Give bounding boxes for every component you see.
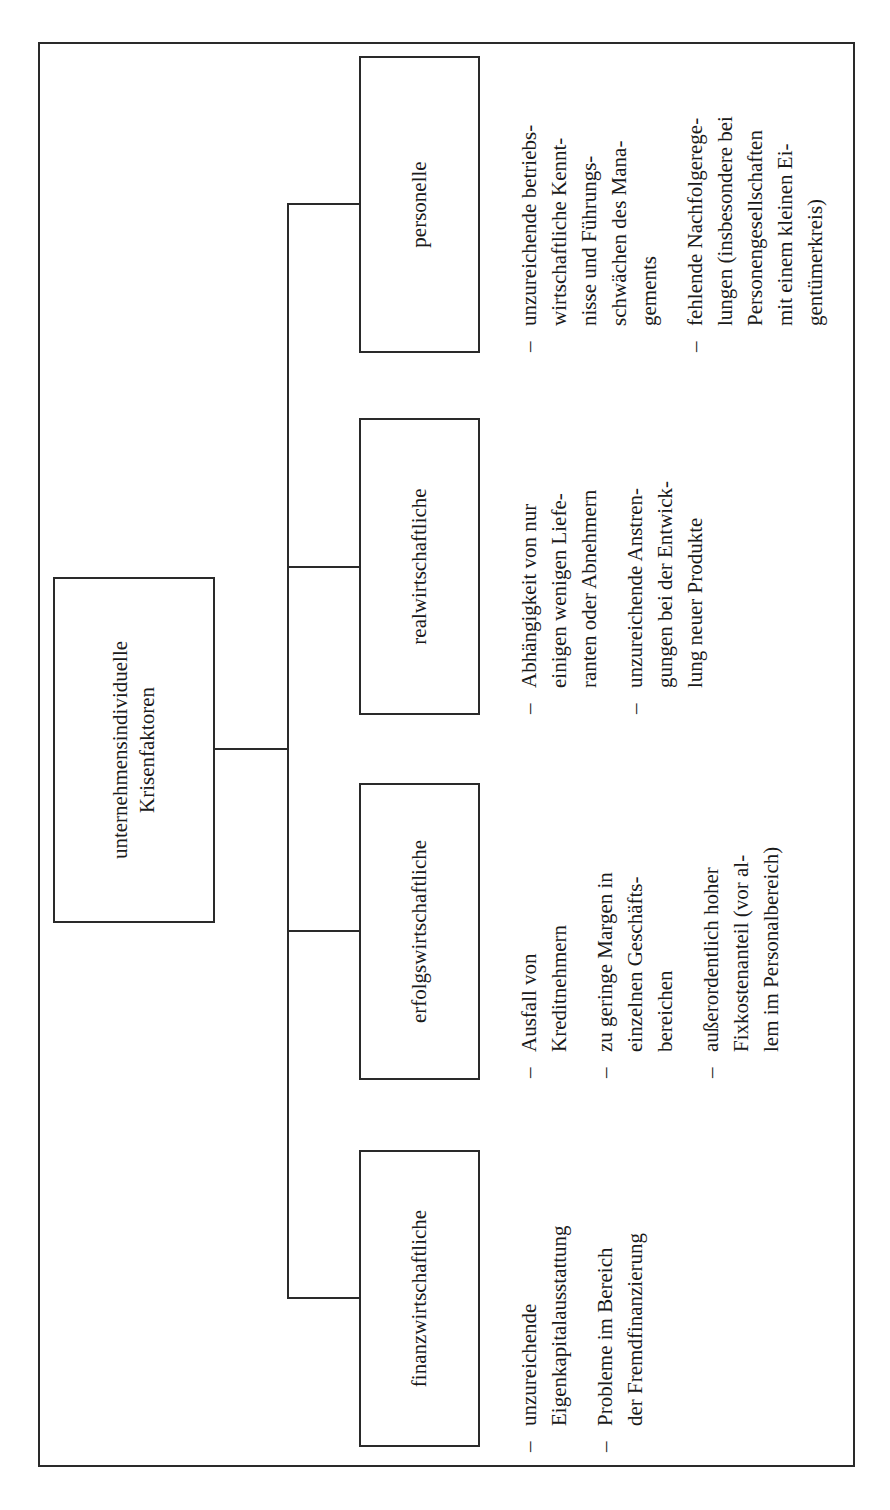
connector-real (287, 566, 359, 568)
list-item: – Probleme im Bereich der Fremdfinanzier… (590, 1122, 650, 1452)
item-text: Probleme im Bereich der Fremdfinanzierun… (590, 1122, 650, 1426)
dash-bullet-icon: – (590, 1052, 680, 1078)
item-text: fehlende Nachfolgerege- lungen (insbeson… (680, 22, 830, 326)
dash-bullet-icon: – (514, 1426, 574, 1452)
list-item: – unzureichende betriebs- wirtschaftlich… (514, 22, 664, 352)
category-label: erfolgswirtschaftliche (406, 840, 433, 1023)
diagram-canvas: unternehmensindividuelle Krisenfaktoren … (0, 0, 890, 1510)
dash-bullet-icon: – (590, 1426, 650, 1452)
dash-bullet-icon: – (696, 1052, 786, 1078)
category-box-erfolgswirtschaftliche: erfolgswirtschaftliche (359, 783, 480, 1080)
dash-bullet-icon: – (514, 1052, 574, 1078)
list-item: – Abhängigkeit von nur einigen wenigen L… (514, 384, 604, 714)
item-text: Ausfall von Kreditnehmern (514, 748, 574, 1052)
connector-finanz (287, 1297, 359, 1299)
category-box-personelle: personelle (359, 56, 480, 353)
root-label-line1: unternehmensindividuelle (107, 641, 134, 859)
root-node-label: unternehmensindividuelle Krisenfaktoren (107, 641, 161, 859)
category-label: realwirtschaftliche (406, 488, 433, 644)
list-item: – Ausfall von Kreditnehmern (514, 748, 574, 1078)
connector-personelle (287, 203, 359, 205)
item-text: unzureichende Anstren- gungen bei der En… (620, 384, 710, 688)
items-realwirtschaftliche: – Abhängigkeit von nur einigen wenigen L… (514, 384, 726, 714)
category-label: personelle (406, 161, 433, 247)
list-item: – unzureichende Anstren- gungen bei der … (620, 384, 710, 714)
list-item: – unzureichende Eigenkapitalausstattung (514, 1122, 574, 1452)
item-text: unzureichende Eigenkapitalausstattung (514, 1122, 574, 1426)
category-label: finanzwirtschaftliche (406, 1210, 433, 1387)
dash-bullet-icon: – (620, 688, 710, 714)
category-box-realwirtschaftliche: realwirtschaftliche (359, 418, 480, 715)
dash-bullet-icon: – (514, 688, 604, 714)
category-box-finanzwirtschaftliche: finanzwirtschaftliche (359, 1150, 480, 1447)
dash-bullet-icon: – (680, 326, 830, 352)
items-erfolgswirtschaftliche: – Ausfall von Kreditnehmern – zu geringe… (514, 748, 802, 1078)
root-node-box: unternehmensindividuelle Krisenfaktoren (53, 577, 215, 923)
list-item: – außerordentlich hoher Fixkostenanteil … (696, 748, 786, 1078)
list-item: – fehlende Nachfolgerege- lungen (insbes… (680, 22, 830, 352)
item-text: unzureichende betriebs- wirtschaftliche … (514, 22, 664, 326)
dash-bullet-icon: – (514, 326, 664, 352)
root-connector (214, 748, 289, 750)
items-finanzwirtschaftliche: – unzureichende Eigenkapitalausstattung … (514, 1122, 666, 1452)
root-label-line2: Krisenfaktoren (134, 641, 161, 859)
trunk-line (287, 203, 289, 1299)
connector-erfolg (287, 930, 359, 932)
item-text: außerordentlich hoher Fixkostenanteil (v… (696, 748, 786, 1052)
item-text: Abhängigkeit von nur einigen wenigen Lie… (514, 384, 604, 688)
item-text: zu geringe Margen in einzelnen Geschäfts… (590, 748, 680, 1052)
list-item: – zu geringe Margen in einzelnen Geschäf… (590, 748, 680, 1078)
items-personelle: – unzureichende betriebs- wirtschaftlich… (514, 22, 846, 352)
